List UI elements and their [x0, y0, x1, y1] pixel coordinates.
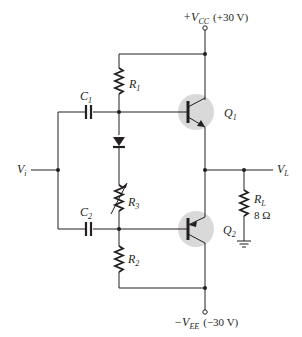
ground-icon [237, 241, 251, 247]
rl-value: 8 Ω [254, 209, 270, 221]
resistor-r2 [115, 246, 123, 288]
r1-label: R1 [128, 77, 140, 93]
junction-dot [203, 52, 207, 56]
vl-label: VL [277, 162, 289, 178]
r2-label: R2 [127, 252, 139, 268]
resistor-r1 [115, 54, 123, 135]
vcc-terminal [203, 26, 207, 100]
variable-resistor-r3 [111, 183, 127, 246]
junction-dot [203, 286, 207, 290]
capacitor-c2 [58, 222, 91, 236]
vcc-label: +VCC(+30 V) [183, 10, 248, 26]
q1-label: Q1 [224, 106, 237, 122]
load-resistor-rl [240, 170, 248, 241]
r3-label: R3 [127, 195, 139, 211]
q2-label: Q2 [223, 223, 236, 239]
vee-terminal [203, 310, 207, 314]
diode [113, 137, 125, 185]
c2-label: C2 [80, 205, 92, 221]
capacitor-c1 [58, 105, 91, 119]
vi-label: Vi [17, 162, 27, 178]
rl-label: RL [253, 192, 266, 208]
c1-label: C1 [80, 89, 92, 105]
circuit-diagram: +VCC(+30 V) R1 C1 Q1 Vi [0, 0, 302, 337]
vee-label: −VEE(−30 V) [174, 315, 239, 331]
